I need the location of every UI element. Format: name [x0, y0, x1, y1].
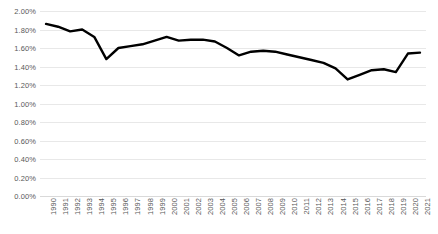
- x-tick-label: 1994: [97, 198, 106, 215]
- x-tick-label: 2001: [182, 198, 191, 215]
- x-tick-label: 1995: [109, 198, 118, 215]
- y-tick-label: 0.60%: [14, 136, 36, 145]
- x-tick-label: 2017: [375, 198, 384, 215]
- x-tick-label: 2009: [278, 198, 287, 215]
- y-tick-label: 1.60%: [14, 44, 36, 53]
- x-tick-label: 2018: [387, 198, 396, 215]
- x-tick-label: 1999: [158, 198, 167, 215]
- x-tick-label: 2014: [339, 198, 348, 215]
- x-tick-label: 1998: [146, 198, 155, 215]
- x-tick-label: 2010: [290, 198, 299, 215]
- x-tick-label: 2013: [326, 198, 335, 215]
- y-tick-label: 1.40%: [14, 62, 36, 71]
- x-tick-label: 2000: [170, 198, 179, 215]
- y-tick-label: 0.40%: [14, 155, 36, 164]
- y-tick-label: 1.20%: [14, 81, 36, 90]
- y-tick-label: 1.80%: [14, 25, 36, 34]
- x-tick-label: 2015: [351, 198, 360, 215]
- x-tick-label: 2020: [411, 198, 420, 215]
- x-tick-label: 2019: [399, 198, 408, 215]
- y-tick-label: 1.00%: [14, 99, 36, 108]
- y-tick-label: 2.00%: [14, 7, 36, 16]
- x-tick-label: 1993: [85, 198, 94, 215]
- x-tick-label: 2002: [194, 198, 203, 215]
- x-tick-label: 2004: [218, 198, 227, 215]
- x-tick-label: 2008: [266, 198, 275, 215]
- series-polyline: [46, 24, 420, 79]
- y-tick-label: 0.80%: [14, 118, 36, 127]
- x-tick-label: 1990: [49, 198, 58, 215]
- x-tick-label: 2003: [206, 198, 215, 215]
- x-tick-label: 1991: [61, 198, 70, 215]
- x-tick-label: 2007: [254, 198, 263, 215]
- y-axis: 0.00%0.20%0.40%0.60%0.80%1.00%1.20%1.40%…: [0, 0, 40, 234]
- x-tick-label: 1996: [121, 198, 130, 215]
- x-tick-label: 2016: [363, 198, 372, 215]
- y-tick-label: 0.00%: [14, 192, 36, 201]
- y-tick-label: 0.20%: [14, 173, 36, 182]
- x-tick-label: 2011: [302, 198, 311, 215]
- x-tick-label: 2012: [314, 198, 323, 215]
- x-axis: 1990199119921993199419951996199719981999…: [40, 198, 430, 234]
- x-tick-label: 2005: [230, 198, 239, 215]
- x-tick-label: 2021: [423, 198, 432, 215]
- x-tick-label: 1997: [133, 198, 142, 215]
- line-chart: 0.00%0.20%0.40%0.60%0.80%1.00%1.20%1.40%…: [0, 0, 438, 234]
- x-tick-label: 1992: [73, 198, 82, 215]
- x-tick-label: 2006: [242, 198, 251, 215]
